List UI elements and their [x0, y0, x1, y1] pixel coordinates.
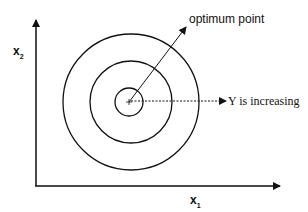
- increasing-label: Y is increasing: [228, 94, 300, 108]
- optimum-label: optimum point: [189, 12, 265, 26]
- optimum-arrow: [129, 27, 186, 102]
- x-axis-label: x1: [190, 193, 201, 209]
- y-axis-label: x2: [13, 44, 24, 60]
- contour-diagram: optimum point Y is increasing x2 x1: [0, 0, 308, 212]
